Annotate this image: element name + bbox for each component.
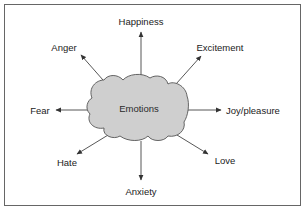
label-anxiety: Anxiety [125,186,156,197]
label-joy-pleasure: Joy/pleasure [226,105,280,116]
label-love: Love [215,155,236,166]
label-fear: Fear [30,105,50,116]
label-excitement: Excitement [197,42,244,53]
center-label: Emotions [119,103,159,114]
emotions-diagram: Emotions Happiness Excitement Joy/pleasu… [0,0,305,211]
label-hate: Hate [57,157,77,168]
label-happiness: Happiness [119,16,164,27]
label-anger: Anger [51,42,76,53]
